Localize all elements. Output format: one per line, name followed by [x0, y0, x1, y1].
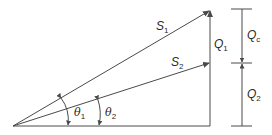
qc-label: Qc	[247, 29, 260, 44]
qc-label-base: Q	[247, 28, 256, 42]
s2-label-base: S	[171, 55, 179, 69]
theta1-label-sub: 1	[81, 112, 85, 121]
theta1-label-base: θ	[74, 106, 81, 119]
q1-label-sub: 1	[223, 44, 227, 53]
q2-label-base: Q	[247, 87, 256, 101]
s1-label: S1	[156, 20, 168, 35]
power-triangle-diagram	[0, 0, 272, 135]
theta2-label: θ2	[105, 106, 116, 121]
q2-label: Q2	[247, 88, 261, 103]
theta1-arc	[61, 98, 68, 125]
q1-label-base: Q	[214, 37, 223, 51]
theta1-label: θ1	[74, 106, 85, 121]
q2-label-sub: 2	[256, 94, 260, 103]
theta2-label-base: θ	[105, 106, 112, 119]
s1-label-base: S	[156, 19, 164, 33]
theta2-label-sub: 2	[112, 112, 116, 121]
s2-label-sub: 2	[179, 62, 183, 71]
s2-label: S2	[171, 56, 183, 71]
q1-label: Q1	[214, 38, 228, 53]
theta2-arc	[98, 100, 100, 125]
qc-label-sub: c	[256, 35, 260, 44]
s1-label-sub: 1	[164, 26, 168, 35]
